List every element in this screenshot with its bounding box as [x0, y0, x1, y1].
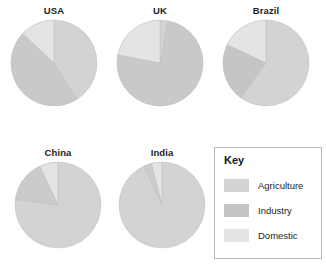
legend-swatch-industry	[224, 204, 249, 217]
pie-chart-figure: USA UK Brazil China India Key Agricultur…	[0, 0, 326, 273]
pie-graphic-india	[118, 161, 206, 249]
pie-graphic-usa	[10, 19, 98, 107]
pie-chart-uk: UK	[108, 6, 212, 107]
pie-graphic-china	[14, 161, 102, 249]
legend-swatch-agriculture	[224, 179, 249, 192]
legend-item-domestic: Domestic	[224, 223, 313, 248]
pie-title-uk: UK	[153, 6, 167, 16]
legend-label-agriculture: Agriculture	[258, 181, 303, 191]
legend-title: Key	[224, 155, 313, 166]
legend-key-box: Key Agriculture Industry Domestic	[214, 147, 322, 259]
legend-item-agriculture: Agriculture	[224, 173, 313, 198]
pie-title-india: India	[151, 148, 174, 158]
pie-svg-usa	[10, 19, 98, 107]
legend-item-industry: Industry	[224, 198, 313, 223]
pie-graphic-uk	[116, 19, 204, 107]
pie-title-brazil: Brazil	[253, 6, 279, 16]
legend-label-industry: Industry	[258, 206, 292, 216]
legend-swatch-domestic	[224, 229, 249, 242]
pie-title-usa: USA	[44, 6, 64, 16]
legend-label-domestic: Domestic	[258, 231, 298, 241]
pie-chart-india: India	[110, 148, 214, 249]
pie-title-china: China	[45, 148, 72, 158]
pie-graphic-brazil	[222, 19, 310, 107]
pie-svg-india	[118, 161, 206, 249]
pie-chart-brazil: Brazil	[214, 6, 318, 107]
pie-svg-brazil	[222, 19, 310, 107]
pie-chart-china: China	[6, 148, 110, 249]
pie-chart-usa: USA	[2, 6, 106, 107]
pie-svg-china	[14, 161, 102, 249]
pie-svg-uk	[116, 19, 204, 107]
